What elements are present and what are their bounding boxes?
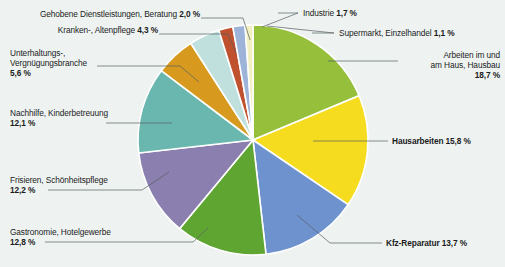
label-kranken-altenpflege: Kranken-, Altenpflege 4,3 %: [4, 25, 158, 35]
label-industrie: Industrie 1,7 %: [303, 8, 443, 18]
label-unterhaltungsbranche: Unterhaltungs-,Vergnügungsbranche5,6 %: [10, 48, 150, 79]
label-hausarbeiten-pct: 15,8 %: [446, 136, 471, 146]
label-frisieren-schoenheitspflege: Frisieren, Schönheitspflege12,2 %: [10, 175, 170, 195]
label-industrie-text: Industrie: [303, 8, 334, 18]
pie-slices-group: [138, 25, 368, 255]
label-kfz-reparatur: Kfz-Reparatur 13,7 %: [386, 238, 505, 248]
label-kfz-pct: 13,7 %: [442, 238, 467, 248]
pie-chart-figure: Gehobene Dienstleistungen, Beratung 2,0 …: [0, 0, 505, 267]
label-nachhilfe-text: Nachhilfe, Kinderbetreuung: [10, 108, 108, 118]
label-arbeiten-haus-hausbau: Arbeiten im undam Haus, Hausbau18,7 %: [345, 50, 500, 81]
label-gehobene-text: Gehobene Dienstleistungen, Beratung: [40, 9, 177, 19]
label-gastronomie-pct: 12,8 %: [10, 237, 35, 247]
label-gehobene-dienstleistungen: Gehobene Dienstleistungen, Beratung 2,0 …: [4, 9, 200, 19]
label-kranken-text: Kranken-, Altenpflege: [58, 25, 135, 35]
label-frisieren-pct: 12,2 %: [10, 185, 35, 195]
label-arbeiten-line1: Arbeiten im und: [443, 50, 500, 60]
label-arbeiten-line2: am Haus, Hausbau: [431, 60, 500, 70]
label-supermarkt-pct: 1,1 %: [434, 28, 455, 38]
label-frisieren-text: Frisieren, Schönheitspflege: [10, 175, 108, 185]
label-unterhaltung-line2: Vergnügungsbranche: [10, 58, 87, 68]
label-supermarkt-text: Supermarkt, Einzelhandel: [339, 28, 432, 38]
label-gehobene-pct: 2,0 %: [179, 9, 200, 19]
label-gastronomie-hotelgewerbe: Gastronomie, Hotelgewerbe12,8 %: [10, 227, 170, 247]
label-supermarkt-einzelhandel: Supermarkt, Einzelhandel 1,1 %: [339, 28, 505, 38]
label-hausarbeiten: Hausarbeiten 15,8 %: [392, 136, 505, 146]
label-gastronomie-text: Gastronomie, Hotelgewerbe: [10, 227, 111, 237]
leader-line-industrie: [262, 13, 298, 27]
label-nachhilfe-kinderbetreuung: Nachhilfe, Kinderbetreuung12,1 %: [10, 108, 170, 128]
label-nachhilfe-pct: 12,1 %: [10, 118, 35, 128]
label-hausarbeiten-text: Hausarbeiten: [392, 136, 443, 146]
label-industrie-pct: 1,7 %: [336, 8, 357, 18]
label-arbeiten-pct: 18,7 %: [475, 70, 500, 80]
label-unterhaltung-pct: 5,6 %: [10, 68, 31, 78]
label-kranken-pct: 4,3 %: [137, 25, 158, 35]
label-kfz-text: Kfz-Reparatur: [386, 238, 440, 248]
label-unterhaltung-line1: Unterhaltungs-,: [10, 48, 65, 58]
